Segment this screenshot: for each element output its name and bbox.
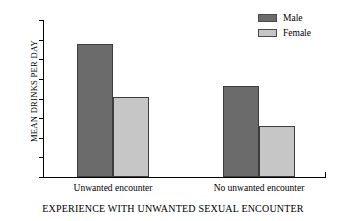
- x-axis-right-cap: [325, 172, 326, 178]
- y-tick-mark: [39, 157, 44, 158]
- bar-female-group1: [113, 97, 149, 177]
- plot-area: 012345678 Unwanted encounterNo unwanted …: [43, 20, 326, 178]
- x-axis-title: EXPERIENCE WITH UNWANTED SEXUAL ENCOUNTE…: [0, 203, 346, 214]
- category-label-1: Unwanted encounter: [53, 183, 173, 194]
- x-axis-line: [43, 177, 326, 178]
- y-tick-mark: [39, 79, 44, 80]
- bar-chart: Male Female MEAN DRINKS PER DAY 01234567…: [0, 0, 346, 221]
- y-tick-mark: [39, 59, 44, 60]
- category-label-2: No unwanted encounter: [199, 183, 319, 194]
- y-tick-mark: [39, 99, 44, 100]
- y-tick-mark: [39, 177, 44, 178]
- bar-male-group1: [77, 44, 113, 177]
- y-tick-mark: [39, 118, 44, 119]
- y-axis-title: MEAN DRINKS PER DAY: [29, 11, 39, 171]
- y-tick-mark: [39, 20, 44, 21]
- y-tick-mark: [39, 138, 44, 139]
- bar-male-group2: [223, 86, 259, 177]
- y-tick-mark: [39, 40, 44, 41]
- bar-female-group2: [259, 126, 295, 177]
